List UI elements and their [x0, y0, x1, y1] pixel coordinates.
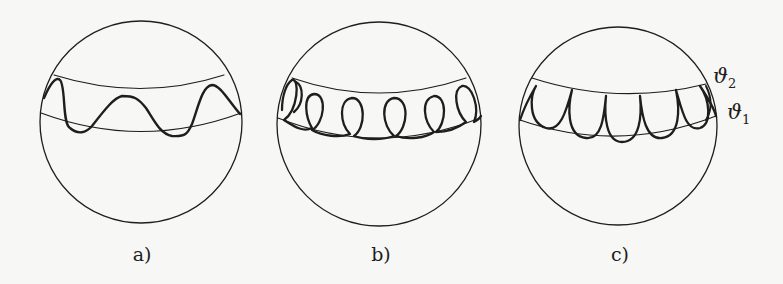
sphere-c-cusp-trajectory: [520, 86, 716, 142]
theta2-label: ϑ2: [713, 64, 736, 91]
sphere-b: [277, 22, 481, 226]
sphere-b-loop-trajectory: [282, 80, 481, 139]
panel-label-b: b): [371, 243, 391, 265]
sphere-c-upper-latitude: [532, 78, 706, 94]
theta1-label: ϑ1: [727, 100, 750, 127]
sphere-b-upper-latitude: [292, 78, 466, 93]
theta2-symbol: ϑ: [713, 64, 728, 88]
sphere-a: [40, 21, 242, 223]
theta1-symbol: ϑ: [727, 100, 742, 124]
sphere-a-upper-latitude: [54, 75, 224, 89]
sphere-trajectories-figure: a) b) c) ϑ2 ϑ1: [0, 0, 783, 284]
theta2-subscript: 2: [728, 76, 736, 91]
sphere-c: [519, 27, 717, 225]
sphere-b-outline: [277, 22, 481, 226]
theta1-subscript: 1: [742, 112, 750, 127]
sphere-a-wave-trajectory: [44, 79, 240, 136]
panel-label-c: c): [611, 243, 629, 265]
panel-label-a: a): [133, 243, 152, 265]
